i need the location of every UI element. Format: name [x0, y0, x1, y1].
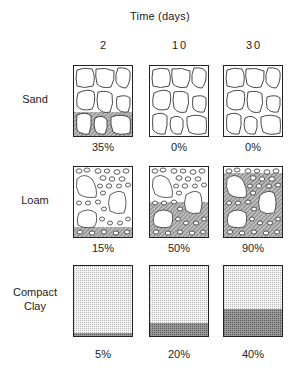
clay-day-10-value: 20%: [148, 348, 210, 360]
loam-day-30-value: 90%: [222, 242, 284, 254]
diagram-title: Time (days): [130, 10, 190, 22]
row-label-compact-clay: Compact Clay: [0, 285, 70, 313]
sand-day-2-value: 35%: [72, 141, 134, 153]
clay-day-30-value: 40%: [222, 348, 284, 360]
row-label-loam: Loam: [0, 193, 70, 207]
clay-day-10-diagram: [149, 265, 209, 337]
row-label-sand: Sand: [0, 92, 70, 106]
clay-day-30-diagram: [223, 265, 283, 337]
row-label-line-1: Compact: [0, 285, 70, 299]
loam-day-2-diagram: [73, 166, 133, 238]
sand-day-10-diagram: [149, 65, 209, 137]
sand-day-30-value: 0%: [222, 141, 284, 153]
loam-day-10-value: 50%: [148, 242, 210, 254]
loam-day-2-value: 15%: [72, 242, 134, 254]
loam-day-10-diagram: [149, 166, 209, 238]
column-label-day-30: 30: [223, 39, 285, 51]
row-label-line-2: Clay: [0, 299, 70, 313]
sand-day-30-diagram: [223, 65, 283, 137]
column-label-day-2: 2: [73, 39, 135, 51]
loam-day-30-diagram: [223, 166, 283, 238]
sand-day-10-value: 0%: [148, 141, 210, 153]
clay-day-2-diagram: [73, 265, 133, 337]
sand-day-2-diagram: [73, 65, 133, 137]
clay-day-2-value: 5%: [72, 348, 134, 360]
column-label-day-10: 10: [149, 39, 211, 51]
